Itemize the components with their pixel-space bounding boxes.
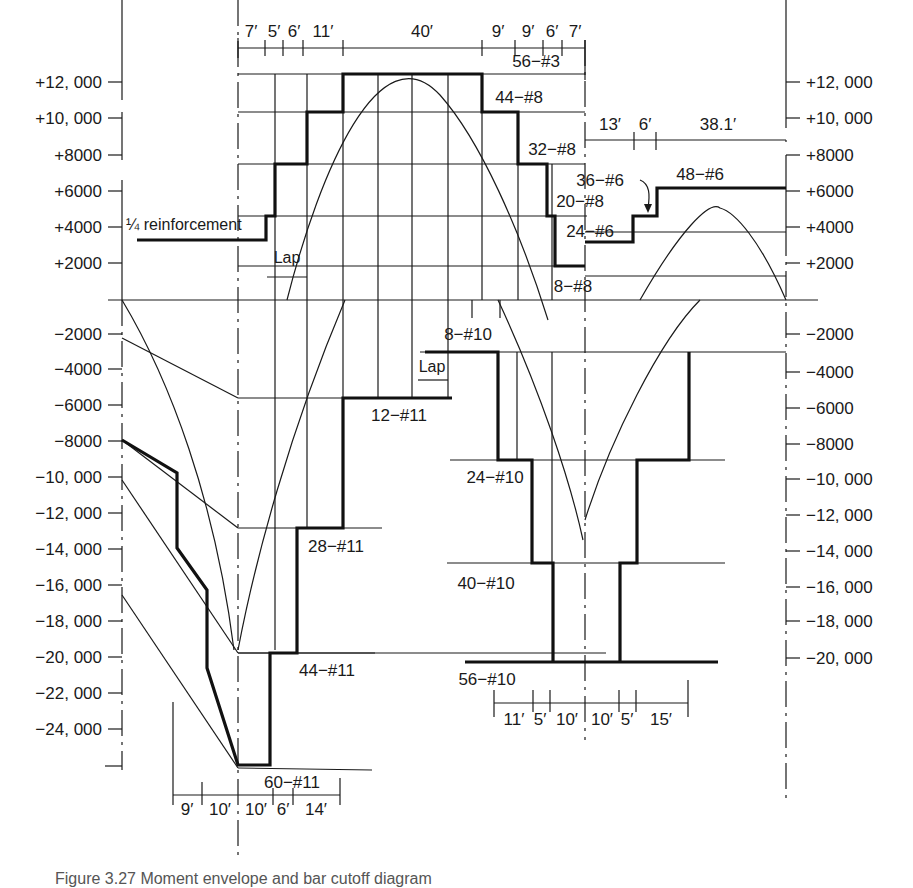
- left-tick-label: +4000: [54, 218, 102, 237]
- positive-moment-curve-main: [287, 79, 548, 320]
- leader-arrow: [640, 180, 649, 208]
- left-tick-label: +12, 000: [35, 73, 102, 92]
- negative-moment-curve-mid: [498, 300, 583, 540]
- right-tick-label: +2000: [806, 254, 854, 273]
- left-tick-label: −14, 000: [35, 540, 102, 559]
- right-tick-label: +4000: [806, 218, 854, 237]
- right-tick-label: +10, 000: [806, 109, 873, 128]
- right-tick-label: −18, 000: [806, 612, 873, 631]
- right-tick-label: −8000: [806, 435, 854, 454]
- dim-label: 7′: [569, 22, 582, 41]
- right-tick-label: −14, 000: [806, 542, 873, 561]
- bar-label-8-8: 8−#8: [554, 277, 592, 296]
- left-tick-label: −2000: [54, 325, 102, 344]
- left-tick-label: −10, 000: [35, 468, 102, 487]
- figure-caption: Figure 3.27 Moment envelope and bar cuto…: [55, 870, 432, 888]
- right-tick-label: −2000: [806, 325, 854, 344]
- left-tick-label: −12, 000: [35, 504, 102, 523]
- left-tick-label: −4000: [54, 360, 102, 379]
- negative-moment-curve-right: [585, 300, 700, 520]
- bar-label-36-6: 36−#6: [576, 171, 624, 190]
- right-tick-label: −20, 000: [806, 649, 873, 668]
- dim-label: 9′: [492, 22, 505, 41]
- dim-label: 10′: [209, 800, 231, 819]
- left-tick-label: −16, 000: [35, 576, 102, 595]
- negative-steel-step-right2: [620, 352, 689, 662]
- left-tick-label: −24, 000: [35, 720, 102, 739]
- lap-label-mid: Lap: [419, 358, 446, 375]
- bar-label-20-8: 20−#8: [556, 192, 604, 211]
- arrowhead-icon: [644, 204, 652, 213]
- right-axis: +12, 000 +10, 000 +8000 +6000 +4000 +200…: [786, 0, 873, 800]
- quarter-reinforcement-label: ¼ reinforcement: [126, 216, 242, 233]
- dim-label: 6′: [639, 115, 652, 134]
- left-tick-label: −20, 000: [35, 648, 102, 667]
- dim-label: 5′: [268, 22, 281, 41]
- positive-steel-step-right: [585, 188, 786, 242]
- dim-label: 10′: [591, 710, 613, 729]
- left-tick-label: +10, 000: [35, 109, 102, 128]
- right-tick-label: +8000: [806, 146, 854, 165]
- dim-label: 9′: [181, 800, 194, 819]
- right-tick-label: −6000: [806, 399, 854, 418]
- right-tick-label: −10, 000: [806, 470, 873, 489]
- bar-label-32-8: 32−#8: [528, 140, 576, 159]
- bar-label-56-10: 56−#10: [458, 670, 515, 689]
- dim-label: 11′: [313, 22, 334, 41]
- negative-grid: [122, 300, 786, 770]
- left-tick-label: −6000: [54, 396, 102, 415]
- left-tick-label: +8000: [54, 146, 102, 165]
- bar-label-44-11: 44−#11: [299, 661, 355, 680]
- dim-label: 9′: [522, 22, 535, 41]
- top-dimension-chain: 7′ 5′ 6′ 11′ 40′ 9′ 9′ 6′ 7′: [238, 22, 585, 80]
- dim-label: 5′: [534, 710, 547, 729]
- left-tick-label: −8000: [54, 432, 102, 451]
- right-tick-label: −16, 000: [806, 578, 873, 597]
- bottom-mid-dimension-chain: 11′ 5′ 10′ 10′ 5′ 15′: [494, 680, 688, 729]
- dim-label: 38.1′: [700, 115, 736, 134]
- left-tick-label: +6000: [54, 182, 102, 201]
- right-span-dimensions: 13′ 6′ 38.1′: [585, 115, 786, 150]
- left-tick-label: +2000: [54, 254, 102, 273]
- bar-label-24-6: 24−#6: [566, 222, 614, 241]
- positive-moment-curve-right: [640, 207, 786, 300]
- dim-label: 5′: [621, 710, 634, 729]
- left-axis: +12, 000 +10, 000 +8000 +6000 +4000 +200…: [35, 0, 122, 770]
- bar-label-28-11: 28−#11: [308, 537, 364, 556]
- moment-envelope-diagram: +12, 000 +10, 000 +8000 +6000 +4000 +200…: [0, 0, 913, 888]
- dim-label: 6′: [546, 22, 559, 41]
- dim-label: 10′: [245, 800, 267, 819]
- negative-steel-step-left: [122, 398, 452, 765]
- dim-label: 11′: [504, 710, 525, 729]
- dim-label: 7′: [245, 22, 258, 41]
- left-tick-label: −22, 000: [35, 684, 102, 703]
- dim-label: 14′: [305, 800, 327, 819]
- bar-label-24-10: 24−#10: [466, 468, 523, 487]
- dim-label: 6′: [288, 22, 301, 41]
- bar-label-8-10: 8−#10: [444, 325, 492, 344]
- bar-label-40-10: 40−#10: [457, 574, 514, 593]
- dim-label: 13′: [599, 115, 621, 134]
- right-tick-label: +12, 000: [806, 73, 873, 92]
- bottom-left-dimension-chain: 9′ 10′ 10′ 6′ 14′: [173, 702, 340, 819]
- right-tick-label: −4000: [806, 363, 854, 382]
- dim-label: 15′: [650, 710, 672, 729]
- right-tick-label: +6000: [806, 182, 854, 201]
- lap-label-top: Lap: [274, 249, 301, 266]
- bar-label-56-3: 56−#3: [512, 52, 560, 71]
- dim-label: 6′: [277, 800, 290, 819]
- left-tick-label: −18, 000: [35, 612, 102, 631]
- dim-label: 10′: [556, 710, 578, 729]
- bar-label-48-6: 48−#6: [676, 165, 724, 184]
- bar-label-12-11: 12−#11: [371, 406, 427, 425]
- bar-label-44-8: 44−#8: [495, 88, 543, 107]
- dim-label: 40′: [411, 22, 433, 41]
- negative-moment-curve-left2: [238, 300, 345, 650]
- right-tick-label: −12, 000: [806, 506, 873, 525]
